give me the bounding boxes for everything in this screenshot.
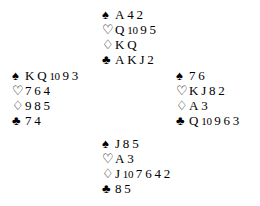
holding-south-clubs: 85 <box>115 181 131 196</box>
card-rank: 7 <box>189 68 196 83</box>
club-suit-symbol: ♣ <box>102 52 115 67</box>
card-rank: Q <box>37 68 47 83</box>
suit-line-north-hearts: ♡Q1095 <box>102 22 156 37</box>
heart-suit-symbol: ♡ <box>102 22 115 37</box>
card-rank: 2 <box>164 166 171 181</box>
card-rank: J <box>201 83 206 98</box>
suit-line-west-spades: ♠KQ1093 <box>12 68 78 83</box>
holding-west-diamonds: 985 <box>25 98 50 113</box>
card-rank: 10 <box>49 69 59 84</box>
card-rank: 9 <box>25 98 32 113</box>
card-rank: 9 <box>62 68 69 83</box>
card-rank: 5 <box>124 181 131 196</box>
card-rank: J <box>139 52 144 67</box>
card-rank: 10 <box>123 167 133 182</box>
heart-suit-symbol: ♡ <box>176 83 189 98</box>
hand-west: ♠KQ1093♡764♢985♣74 <box>12 68 78 128</box>
card-rank: Q <box>115 22 125 37</box>
card-rank: 6 <box>198 68 205 83</box>
card-rank: 7 <box>25 83 32 98</box>
suit-line-south-diamonds: ♢J107642 <box>102 166 170 181</box>
card-rank: 9 <box>140 22 147 37</box>
spade-suit-symbol: ♠ <box>176 68 189 83</box>
suit-line-north-diamonds: ♢KQ <box>102 37 156 52</box>
card-rank: 7 <box>136 166 143 181</box>
card-rank: 8 <box>123 136 130 151</box>
holding-west-hearts: 764 <box>25 83 50 98</box>
suit-line-east-spades: ♠76 <box>176 68 239 83</box>
card-rank: 7 <box>25 113 32 128</box>
suit-line-south-spades: ♠J85 <box>102 136 170 151</box>
card-rank: K <box>189 83 199 98</box>
holding-east-spades: 76 <box>189 68 205 83</box>
holding-east-diamonds: A3 <box>189 98 208 113</box>
suit-line-east-diamonds: ♢A3 <box>176 98 239 113</box>
diamond-suit-symbol: ♢ <box>102 37 115 52</box>
card-rank: 8 <box>115 181 122 196</box>
holding-north-spades: A42 <box>115 7 143 22</box>
suit-line-west-diamonds: ♢985 <box>12 98 78 113</box>
card-rank: K <box>127 52 137 67</box>
card-rank: J <box>115 136 120 151</box>
holding-east-clubs: Q10963 <box>189 113 239 129</box>
club-suit-symbol: ♣ <box>12 113 25 128</box>
card-rank: 8 <box>34 98 41 113</box>
club-suit-symbol: ♣ <box>102 181 115 196</box>
card-rank: 8 <box>209 83 216 98</box>
card-rank: 10 <box>201 114 211 129</box>
club-suit-symbol: ♣ <box>176 113 189 128</box>
card-rank: 4 <box>127 7 134 22</box>
spade-suit-symbol: ♠ <box>12 68 25 83</box>
suit-line-north-clubs: ♣AKJ2 <box>102 52 156 67</box>
card-rank: 2 <box>147 52 154 67</box>
card-rank: 6 <box>34 83 41 98</box>
card-rank: 10 <box>127 23 137 38</box>
holding-west-spades: KQ1093 <box>25 68 78 84</box>
card-rank: Q <box>189 113 199 128</box>
heart-suit-symbol: ♡ <box>102 151 115 166</box>
hand-east: ♠76♡KJ82♢A3♣Q10963 <box>176 68 239 128</box>
holding-west-clubs: 74 <box>25 113 41 128</box>
hand-north: ♠A42♡Q1095♢KQ♣AKJ2 <box>102 7 156 67</box>
card-rank: 3 <box>201 98 208 113</box>
card-rank: A <box>189 98 199 113</box>
card-rank: K <box>25 68 35 83</box>
holding-north-hearts: Q1095 <box>115 22 156 38</box>
suit-line-north-spades: ♠A42 <box>102 7 156 22</box>
card-rank: 4 <box>154 166 161 181</box>
spade-suit-symbol: ♠ <box>102 7 115 22</box>
card-rank: A <box>115 52 125 67</box>
card-rank: 6 <box>145 166 152 181</box>
card-rank: 4 <box>44 83 51 98</box>
card-rank: 3 <box>72 68 79 83</box>
card-rank: 3 <box>233 113 240 128</box>
holding-north-diamonds: KQ <box>115 37 137 52</box>
card-rank: A <box>115 7 125 22</box>
suit-line-south-hearts: ♡A3 <box>102 151 170 166</box>
card-rank: 5 <box>44 98 51 113</box>
heart-suit-symbol: ♡ <box>12 83 25 98</box>
spade-suit-symbol: ♠ <box>102 136 115 151</box>
suit-line-east-hearts: ♡KJ82 <box>176 83 239 98</box>
card-rank: 2 <box>136 7 143 22</box>
suit-line-east-clubs: ♣Q10963 <box>176 113 239 128</box>
card-rank: K <box>115 37 125 52</box>
card-rank: 2 <box>218 83 225 98</box>
card-rank: 5 <box>149 22 156 37</box>
suit-line-west-hearts: ♡764 <box>12 83 78 98</box>
card-rank: 3 <box>127 151 134 166</box>
card-rank: Q <box>127 37 137 52</box>
holding-north-clubs: AKJ2 <box>115 52 154 67</box>
card-rank: 6 <box>223 113 230 128</box>
holding-south-spades: J85 <box>115 136 139 151</box>
suit-line-west-clubs: ♣74 <box>12 113 78 128</box>
suit-line-south-clubs: ♣85 <box>102 181 170 196</box>
holding-east-hearts: KJ82 <box>189 83 225 98</box>
diamond-suit-symbol: ♢ <box>102 166 115 181</box>
card-rank: 4 <box>34 113 41 128</box>
diamond-suit-symbol: ♢ <box>176 98 189 113</box>
card-rank: J <box>115 166 120 181</box>
holding-south-hearts: A3 <box>115 151 134 166</box>
card-rank: A <box>115 151 125 166</box>
card-rank: 9 <box>214 113 221 128</box>
